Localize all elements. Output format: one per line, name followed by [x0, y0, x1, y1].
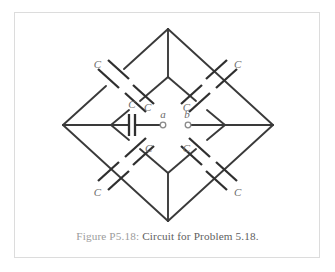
terminal-label-b: b	[184, 108, 190, 120]
figure-caption-text: Circuit for Problem 5.18.	[142, 230, 259, 242]
wire-outer-right-bottom	[168, 125, 273, 221]
wire-inner-right-bottom-a	[207, 125, 225, 140]
wire-outer-left-top-a	[63, 86, 106, 125]
figure-caption: Figure P5.18: Circuit for Problem 5.18.	[0, 229, 335, 243]
cap-center-left-icon	[129, 114, 135, 136]
terminal-labels: a b	[160, 108, 190, 120]
cap-label-inner-top-left: C	[144, 101, 152, 113]
cap-outer-bottom-right-icon	[206, 162, 237, 190]
wire-inner-bottom-left-b	[111, 125, 129, 140]
terminal-b-node[interactable]	[185, 122, 191, 128]
cap-label-outer-bottom-left: C	[94, 186, 102, 198]
cap-outer-top-left-icon	[98, 60, 129, 88]
wire-outer-left-top-b	[124, 29, 168, 69]
figure-caption-label: Figure P5.18:	[76, 230, 139, 242]
wire-inner-left-top-b	[140, 77, 168, 101]
terminal-a-node[interactable]	[160, 122, 166, 128]
cap-label-center-left: C	[128, 98, 136, 110]
cap-outer-bottom-left-icon	[98, 162, 129, 190]
cap-label-inner-bottom-right: C	[183, 142, 191, 154]
cap-label-outer-bottom-right: C	[234, 186, 242, 198]
terminal-label-a: a	[160, 108, 166, 120]
cap-outer-top-right-icon	[206, 60, 237, 88]
terminal-nodes	[160, 122, 191, 128]
wire-inner-top-right-b	[207, 110, 225, 125]
cap-label-inner-bottom-left: C	[145, 142, 153, 154]
cap-label-outer-top-right: C	[234, 58, 242, 70]
figure-container: C C C C C C C C C a b Figure P5.18: Circ…	[0, 0, 335, 272]
wire-inner-top-right-a	[168, 77, 196, 101]
wire-inner-left-top-a	[111, 110, 129, 125]
cap-label-outer-top-left: C	[94, 58, 102, 70]
wire-outer-bottom-left	[63, 125, 168, 221]
